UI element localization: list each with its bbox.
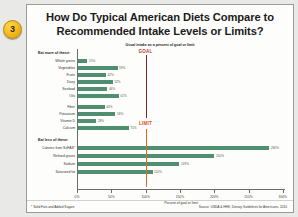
x-axis-line: [77, 189, 285, 190]
source-citation: Source: USDA & HHS, Dietary Guidelines f…: [199, 205, 287, 209]
bar-seafood: [77, 87, 107, 90]
footer-divider: [27, 200, 293, 201]
bar-value-fiber: 40%: [106, 106, 112, 109]
bar-value-calories-sofas: 280%: [271, 147, 279, 150]
bar-potassium: [77, 112, 115, 115]
row-label-dairy: Dairy: [67, 81, 75, 84]
group-header-eat-more: Eat more of these:: [38, 51, 70, 55]
goal-reference-line: [146, 55, 147, 118]
chart-plot-area: Eat more of these: Whole grains 15% Vege…: [27, 49, 293, 212]
x-tick-250: [249, 190, 250, 193]
bar-value-calcium: 75%: [130, 127, 136, 130]
x-tick-label-200: 200%: [210, 195, 218, 199]
row-label-refined-grains: Refined grains: [53, 155, 75, 158]
row-label-oils: Oils: [69, 95, 75, 98]
bar-value-whole-grains: 15%: [89, 60, 95, 63]
bar-vegetables: [77, 66, 118, 69]
slide-number-badge: 3: [3, 20, 22, 39]
row-label-sodium: Sodium: [64, 163, 76, 166]
bar-sodium: [77, 162, 179, 165]
bar-dairy: [77, 80, 113, 83]
x-tick-200: [214, 190, 215, 193]
footnote-text: * Solid Fats and Added Sugars: [31, 205, 74, 209]
group-header-eat-less: Eat less of these:: [38, 138, 68, 142]
row-label-calories-sofas: Calories from SoFAS*: [42, 147, 75, 150]
x-tick-label-150: 150%: [176, 195, 184, 199]
bar-value-potassium: 56%: [117, 113, 123, 116]
row-label-saturated-fat: Saturated fat: [56, 171, 75, 174]
title-line-1: How Do Typical American Diets Compare to: [37, 11, 283, 25]
row-label-vitamin-d: Vitamin D: [60, 120, 75, 123]
bar-value-vitamin-d: 28%: [98, 120, 104, 123]
title-line-2: Recommended Intake Levels or Limits?: [37, 25, 283, 39]
limit-reference-line: [146, 129, 147, 187]
x-tick-label-250: 250%: [244, 195, 252, 199]
bar-calories-sofas: [77, 146, 269, 149]
chart-subtitle: Usual intake as a percent of goal or lim…: [27, 43, 293, 47]
row-label-calcium: Calcium: [63, 127, 75, 130]
goal-marker-label: GOAL: [138, 49, 152, 54]
bar-vitamin-d: [77, 119, 96, 122]
x-tick-100: [146, 190, 147, 193]
bar-value-seafood: 44%: [109, 88, 115, 91]
bar-fruits: [77, 73, 106, 76]
bar-value-vegetables: 59%: [119, 67, 125, 70]
bar-oils: [77, 94, 119, 97]
x-tick-label-100: 100%: [141, 195, 149, 199]
x-tick-150: [180, 190, 181, 193]
bar-value-sodium: 149%: [181, 163, 189, 166]
page-title: How Do Typical American Diets Compare to…: [27, 5, 293, 38]
x-tick-label-300: 300%: [279, 195, 287, 199]
chart-card: How Do Typical American Diets Compare to…: [26, 4, 294, 213]
x-tick-300: [283, 190, 284, 193]
limit-marker-label: LIMIT: [139, 121, 152, 126]
row-label-fruits: Fruits: [67, 74, 75, 77]
bar-saturated-fat: [77, 170, 153, 173]
row-label-whole-grains: Whole grains: [55, 60, 75, 63]
bar-value-dairy: 52%: [114, 81, 120, 84]
bar-value-saturated-fat: 110%: [154, 171, 162, 174]
x-tick-0: [77, 190, 78, 193]
row-label-fiber: Fiber: [67, 106, 75, 109]
x-tick-50: [111, 190, 112, 193]
bar-value-fruits: 42%: [108, 74, 114, 77]
row-label-potassium: Potassium: [59, 113, 75, 116]
bar-value-oils: 61%: [121, 95, 127, 98]
bar-whole-grains: [77, 59, 87, 62]
x-tick-label-0: 0%: [75, 195, 80, 199]
bar-calcium: [77, 126, 129, 129]
x-tick-label-50: 50%: [108, 195, 115, 199]
row-label-vegetables: Vegetables: [58, 67, 75, 70]
row-label-seafood: Seafood: [62, 88, 75, 91]
bar-value-refined-grains: 200%: [216, 155, 224, 158]
slide-root: 3 How Do Typical American Diets Compare …: [0, 0, 298, 217]
bar-fiber: [77, 105, 105, 108]
y-axis-line: [77, 49, 78, 190]
